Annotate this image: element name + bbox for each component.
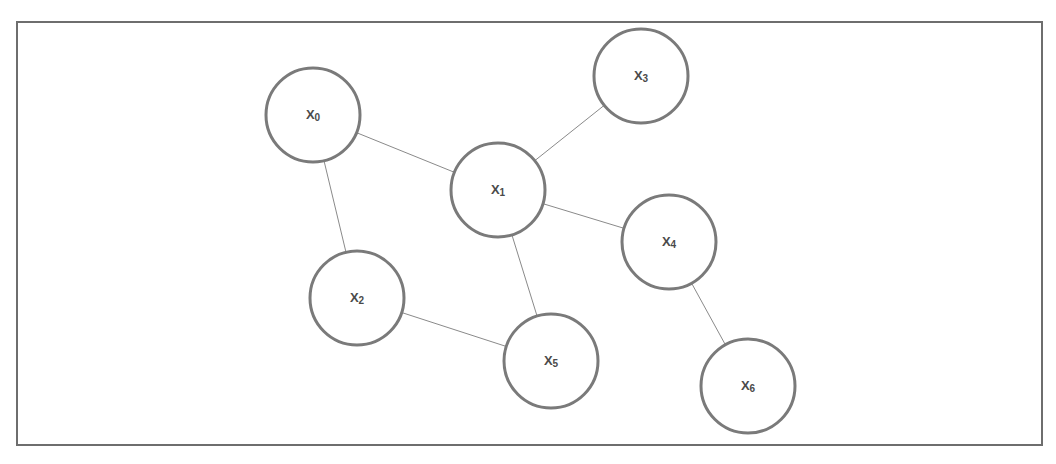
node-x0: X0	[266, 68, 360, 162]
nodes-layer: X0X1X2X3X4X5X6	[266, 29, 795, 433]
node-x5: X5	[504, 314, 598, 408]
node-x4: X4	[622, 195, 716, 289]
edge-x1-x4	[543, 204, 624, 229]
graph-diagram: X0X1X2X3X4X5X6	[0, 0, 1056, 464]
edge-x0-x2	[324, 161, 346, 253]
edge-x2-x5	[402, 313, 507, 347]
edge-x4-x6	[692, 283, 726, 345]
node-x3: X3	[594, 29, 688, 123]
node-x1: X1	[451, 143, 545, 237]
edge-x1-x3	[535, 105, 604, 160]
node-x6: X6	[701, 339, 795, 433]
edge-x1-x5	[512, 235, 537, 316]
node-x2: X2	[310, 251, 404, 345]
edge-x0-x1	[357, 133, 455, 173]
